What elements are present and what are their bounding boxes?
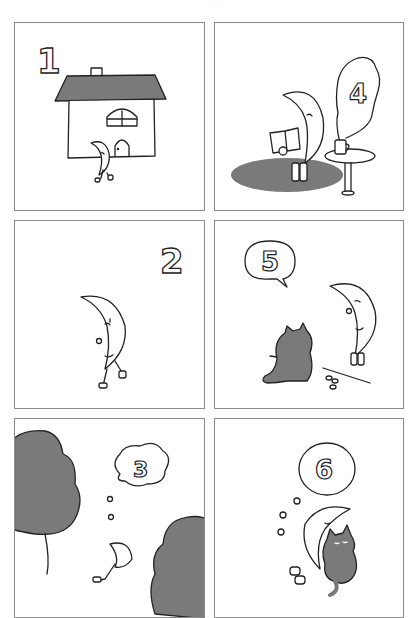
- meeting-cat-scene-illustration: 5: [215, 221, 404, 409]
- panel-number-2: 2: [160, 241, 184, 281]
- comic-panel-2: 2: [14, 220, 205, 409]
- comic-panel-4: 4: [214, 22, 404, 211]
- walking-scene-illustration: 2: [15, 221, 205, 409]
- house-scene-illustration: 1: [15, 23, 205, 211]
- reading-scene-illustration: 4: [215, 23, 404, 211]
- panel-number-5: 5: [261, 247, 279, 277]
- comic-panel-5: 5: [214, 220, 404, 409]
- comic-panel-3: 3: [14, 418, 205, 618]
- panel-number-1: 1: [37, 41, 61, 81]
- page-marker: · · ·: [200, 0, 230, 6]
- panel-number-6: 6: [315, 455, 333, 485]
- panel-number-3: 3: [133, 457, 148, 482]
- comic-panel-6: 6: [214, 418, 404, 618]
- park-dreaming-scene-illustration: 3: [15, 419, 205, 618]
- sleeping-scene-illustration: 6: [215, 419, 404, 618]
- comic-panel-1: 1: [14, 22, 205, 211]
- panel-number-4: 4: [349, 79, 367, 109]
